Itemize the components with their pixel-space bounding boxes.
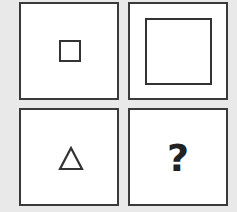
panel-bottom-left <box>19 108 119 206</box>
panel-bottom-right[interactable]: ? <box>128 108 228 206</box>
triangle-icon <box>58 146 84 172</box>
small-square-icon <box>59 40 81 62</box>
panel-top-left <box>19 2 119 100</box>
panel-top-right <box>128 2 228 100</box>
question-mark: ? <box>130 136 226 180</box>
large-square-icon <box>145 18 212 85</box>
